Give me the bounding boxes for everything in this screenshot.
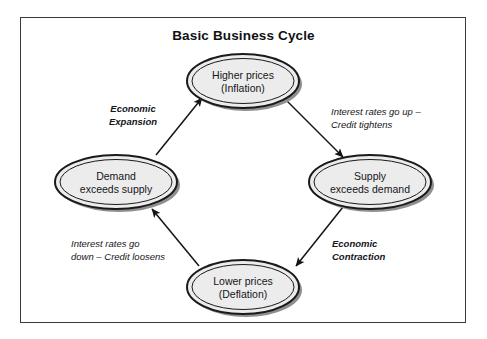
edge-label-tightening: Interest rates go up – Credit tightens: [331, 106, 421, 131]
edge-line1: Interest rates go: [71, 238, 140, 249]
node-line1: Higher prices: [212, 69, 274, 81]
diagram-canvas: Basic Business Cycle Higher prices (Infl…: [0, 0, 487, 339]
arrow-demand-to-higher-prices: [156, 98, 202, 155]
node-line1: Supply: [354, 170, 386, 182]
node-line2: exceeds supply: [80, 182, 152, 194]
node-line2: (Inflation): [221, 81, 265, 93]
node-label-demand-exceeds-supply: Demand exceeds supply: [80, 170, 152, 195]
node-line1: Lower prices: [213, 275, 273, 287]
edge-line2: Expansion: [109, 115, 157, 126]
edge-line2: down – Credit loosens: [71, 250, 165, 261]
edge-line1: Interest rates go up –: [331, 106, 421, 117]
node-label-lower-prices: Lower prices (Deflation): [213, 275, 273, 300]
edge-line2: Contraction: [332, 250, 385, 261]
page-title: Basic Business Cycle: [0, 28, 487, 43]
edge-line2: Credit tightens: [331, 118, 392, 129]
edge-label-contraction: Economic Contraction: [332, 238, 385, 263]
edge-line1: Economic: [332, 238, 377, 249]
node-label-higher-prices: Higher prices (Inflation): [212, 69, 274, 94]
edge-label-loosening: Interest rates go down – Credit loosens: [71, 238, 165, 263]
edge-label-expansion: Economic Expansion: [109, 103, 157, 128]
edge-line1: Economic: [110, 103, 155, 114]
node-line1: Demand: [96, 170, 136, 182]
node-label-supply-exceeds-demand: Supply exceeds demand: [330, 170, 410, 195]
node-line2: (Deflation): [219, 287, 267, 299]
node-line2: exceeds demand: [330, 182, 410, 194]
